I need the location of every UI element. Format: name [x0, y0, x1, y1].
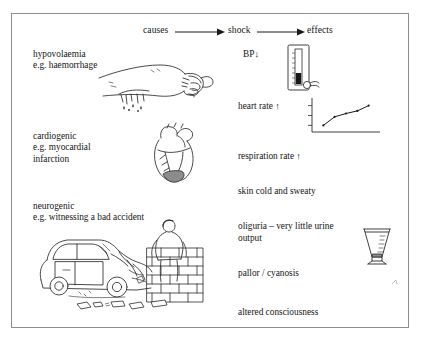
- cause-cardiogenic-line2: e.g. myocardial: [33, 142, 91, 152]
- effect-oliguria-label: oliguria – very little urine output: [238, 221, 334, 245]
- effect-bp-label: BP↓: [243, 49, 259, 61]
- effect-respiration-rate-label: respiration rate ↑: [238, 151, 301, 163]
- arrow-shock-to-effects-icon: [257, 27, 305, 37]
- effect-bp-trend-arrow: ↓: [254, 49, 259, 59]
- cause-hypovolaemia-label: hypovolaemia e.g. haemorrhage: [33, 49, 97, 72]
- sphygmomanometer-icon: [286, 44, 320, 92]
- effect-pallor-label: pallor / cyanosis: [238, 268, 299, 280]
- cause-cardiogenic-line3: infarction: [33, 154, 69, 164]
- effect-oliguria-line1: oliguria – very little urine: [238, 221, 334, 231]
- effect-heart-rate-label: heart rate ↑: [238, 101, 280, 113]
- effect-consciousness-label: altered consciousness: [238, 307, 318, 319]
- cause-hypovolaemia-line1: hypovolaemia: [33, 49, 86, 59]
- effect-skin-label: skin cold and sweaty: [238, 186, 316, 198]
- car-crash-illustration: [33, 218, 213, 318]
- effect-heart-rate-trend-arrow: ↑: [275, 101, 280, 111]
- cause-cardiogenic-line1: cardiogenic: [33, 131, 76, 141]
- cause-hypovolaemia-line2: e.g. haemorrhage: [33, 60, 97, 70]
- heart-rate-line-chart: [300, 96, 384, 140]
- bleeding-arm-illustration: [97, 52, 215, 114]
- header-effects-label: effects: [307, 25, 333, 35]
- page-artifact-mark: [391, 278, 401, 288]
- header-shock-label: shock: [228, 25, 251, 35]
- arrow-causes-to-shock-icon: [175, 27, 225, 37]
- effect-oliguria-line2: output: [238, 233, 262, 243]
- effect-bp-text: BP: [243, 49, 254, 59]
- effect-respiration-rate-text: respiration rate: [238, 151, 294, 161]
- shock-diagram-figure: causes shock effects hypovolaemia e.g. h…: [0, 0, 422, 343]
- heart-infarction-illustration: [145, 122, 207, 190]
- effect-heart-rate-text: heart rate: [238, 101, 273, 111]
- cause-cardiogenic-label: cardiogenic e.g. myocardial infarction: [33, 131, 91, 165]
- header-causes-label: causes: [143, 25, 168, 35]
- measuring-beaker-icon: [360, 224, 394, 268]
- effect-respiration-rate-trend-arrow: ↑: [296, 151, 301, 161]
- cause-neurogenic-line1: neurogenic: [33, 201, 74, 211]
